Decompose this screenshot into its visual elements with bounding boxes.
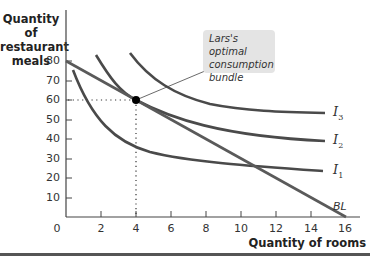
y-tick-label: 30 <box>40 152 60 165</box>
x-tick-label: 10 <box>231 222 251 235</box>
label-i2-sub: 2 <box>338 141 343 150</box>
label-i1: I1 <box>333 162 343 180</box>
callout-line: consumption <box>209 58 275 71</box>
optimal-bundle-callout: Lars's optimal consumption bundle <box>203 30 275 73</box>
label-i3-sub: 3 <box>338 113 343 122</box>
y-tick-label: 40 <box>40 132 60 145</box>
callout-line: Lars's optimal <box>209 32 275 58</box>
y-tick-label: 80 <box>40 54 60 67</box>
x-tick-label: 12 <box>266 222 286 235</box>
chart-plot <box>0 0 370 256</box>
y-ticks <box>66 61 72 198</box>
label-budget-line: BL <box>333 200 347 213</box>
x-tick-label: 2 <box>91 222 111 235</box>
callout-line: bundle <box>209 71 275 84</box>
y-tick-label: 50 <box>40 113 60 126</box>
x-tick-label: 4 <box>126 222 146 235</box>
x-ticks <box>101 211 311 217</box>
x-tick-label: 8 <box>196 222 216 235</box>
y-tick-label: 60 <box>40 93 60 106</box>
callout-leader <box>136 71 205 100</box>
y-tick-label: 70 <box>40 74 60 87</box>
x-tick-label: 0 <box>47 222 67 235</box>
optimal-bundle-point <box>132 96 140 104</box>
label-i2: I2 <box>333 132 343 150</box>
label-i1-sub: 1 <box>338 171 343 180</box>
label-i3: I3 <box>333 104 343 122</box>
y-tick-label: 10 <box>40 191 60 204</box>
x-tick-label: 14 <box>301 222 321 235</box>
y-tick-label: 20 <box>40 171 60 184</box>
x-axis-title: Quantity of rooms <box>248 236 366 250</box>
x-tick-label: 16 <box>335 222 355 235</box>
x-tick-label: 6 <box>161 222 181 235</box>
